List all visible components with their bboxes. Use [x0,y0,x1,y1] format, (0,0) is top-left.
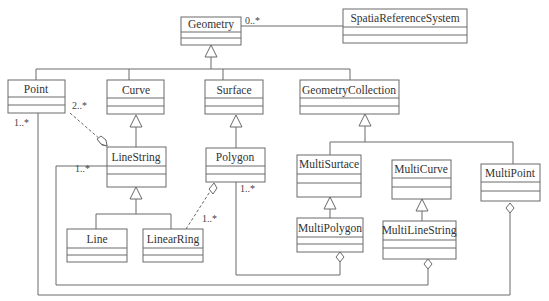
triangle-arrow-icon [324,197,336,209]
class-curve[interactable]: Curve [107,80,164,114]
class-linestring[interactable]: LineString [107,147,166,187]
triangle-arrow-icon [130,187,142,199]
class-name: Curve [122,84,150,96]
diamond-aggregation-icon [506,203,514,213]
class-geometry[interactable]: Geometry [181,17,241,45]
class-name: MultiPoint [485,167,536,179]
class-name: MultiSurtace [299,158,359,170]
multiplicity-point-multipoint: 1..* [14,117,29,128]
diamond-aggregation-icon [209,183,217,194]
class-name: LinearRing [147,233,200,246]
aggregation-point-multipoint [38,113,510,295]
class-multisurface[interactable]: MultiSurtace [297,155,361,197]
multiplicity-point-linestring: 2..* [72,100,87,111]
class-name: Point [24,83,49,95]
generalization-arrows [130,45,428,211]
class-name: Polygon [216,151,255,164]
class-name: MultiLineString [382,224,457,237]
class-name: GeometryCollection [302,84,396,97]
triangle-arrow-icon [230,115,242,127]
triangle-arrow-icon [130,115,142,127]
multiplicity-linestring-multilinestring: 1..* [75,163,90,174]
uml-class-diagram: Geometry SpatiaReferenceSystem Point Cur… [0,0,549,301]
diamond-aggregation-icon [424,259,432,269]
multiplicity-polygon-multipolygon: 1..* [240,183,255,194]
aggregation-point-linestring [70,113,101,140]
class-linearring[interactable]: LinearRing [143,229,203,262]
class-surface[interactable]: Surface [205,80,263,114]
class-point[interactable]: Point [8,80,65,113]
multiplicity-geometry-srs: 0..* [245,15,260,26]
class-multipolygon[interactable]: MultiPolygon [297,218,363,252]
class-name: SpatiaReferenceSystem [350,12,459,25]
class-geometry-collection[interactable]: GeometryCollection [300,80,399,114]
class-multicurve[interactable]: MultiCurve [392,160,451,199]
class-spatial-reference-system[interactable]: SpatiaReferenceSystem [343,9,467,43]
class-name: LineString [111,151,160,164]
triangle-arrow-icon [205,45,217,57]
class-polygon[interactable]: Polygon [206,148,265,182]
class-line[interactable]: Line [67,229,127,262]
class-name: Surface [216,84,251,96]
triangle-arrow-icon [416,199,428,211]
class-name: Line [86,233,107,245]
diamond-aggregation-icon [336,252,344,262]
class-multilinestring[interactable]: MultiLineString [382,221,457,259]
class-name: MultiCurve [394,163,448,175]
multiplicity-linearring-polygon: 1..* [202,213,217,224]
triangle-arrow-icon [359,114,371,126]
class-multipoint[interactable]: MultiPoint [481,164,540,201]
class-name: Geometry [188,18,234,31]
diamond-aggregation-icon [97,136,107,146]
class-name: MultiPolygon [298,222,362,235]
